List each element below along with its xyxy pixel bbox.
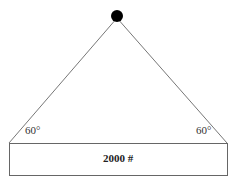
- load-weight-label: 2000 #: [103, 152, 134, 164]
- left-angle-label: 60°: [25, 124, 40, 136]
- sling-diagram: 60° 60° 2000 #: [0, 0, 243, 184]
- pivot-point: [111, 10, 123, 22]
- right-angle-label: 60°: [196, 124, 211, 136]
